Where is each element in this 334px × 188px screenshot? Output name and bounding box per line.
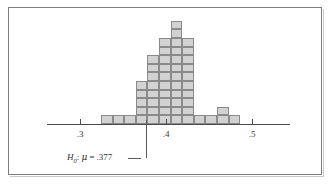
h0-pointer-vertical <box>146 120 147 158</box>
x-axis-tick <box>166 119 167 124</box>
histogram-cell <box>147 107 159 116</box>
x-axis-line <box>47 124 290 125</box>
histogram-cell <box>147 55 159 64</box>
histogram-cell <box>171 29 183 38</box>
histogram-cell <box>101 115 113 124</box>
histogram-cell <box>182 107 194 116</box>
histogram-cell <box>147 64 159 73</box>
histogram-plot: .3.4.5 H0: μ=.377 <box>0 0 334 188</box>
histogram-cell <box>159 107 171 116</box>
histogram-cell <box>171 72 183 81</box>
x-axis-tick-label: .3 <box>68 130 92 139</box>
h0-colon: : <box>77 152 80 162</box>
histogram-cell <box>229 115 241 124</box>
histogram-cell <box>113 115 125 124</box>
x-axis-tick-label: .5 <box>240 130 264 139</box>
histogram-cell <box>182 38 194 47</box>
h0-annotation-label: H0: μ=.377 <box>67 153 112 164</box>
h0-pointer-horizontal <box>128 158 141 159</box>
histogram-cell <box>182 98 194 107</box>
histogram-cell <box>182 115 194 124</box>
histogram-cell <box>217 107 229 116</box>
histogram-cell <box>136 90 148 99</box>
x-axis-tick <box>80 119 81 124</box>
histogram-cell <box>159 47 171 56</box>
histogram-cell <box>136 107 148 116</box>
figure-container: .3.4.5 H0: μ=.377 <box>0 0 334 188</box>
histogram-cell <box>171 64 183 73</box>
histogram-cell <box>124 115 136 124</box>
histogram-cell <box>159 72 171 81</box>
histogram-cell <box>182 90 194 99</box>
histogram-cell <box>147 90 159 99</box>
histogram-cell <box>159 90 171 99</box>
histogram-cell <box>147 81 159 90</box>
histogram-cell <box>147 115 159 124</box>
histogram-cell <box>171 115 183 124</box>
x-axis-tick <box>252 119 253 124</box>
histogram-cell <box>136 81 148 90</box>
histogram-cell <box>159 81 171 90</box>
x-axis-tick-label: .4 <box>154 130 178 139</box>
histogram-cell <box>171 38 183 47</box>
histogram-cell <box>171 47 183 56</box>
histogram-cell <box>147 72 159 81</box>
histogram-cell <box>182 55 194 64</box>
histogram-cell <box>182 64 194 73</box>
histogram-cell <box>171 81 183 90</box>
histogram-cell <box>171 21 183 30</box>
histogram-cell <box>205 115 217 124</box>
histogram-cell <box>147 98 159 107</box>
histogram-cell <box>159 64 171 73</box>
histogram-cell <box>182 81 194 90</box>
histogram-cell <box>182 47 194 56</box>
histogram-cell <box>171 98 183 107</box>
histogram-cell <box>217 115 229 124</box>
histogram-cell <box>136 98 148 107</box>
histogram-cell <box>159 38 171 47</box>
histogram-cell <box>171 55 183 64</box>
h0-value: .377 <box>96 152 112 162</box>
histogram-cell <box>159 98 171 107</box>
histogram-cell <box>171 107 183 116</box>
histogram-cell <box>182 72 194 81</box>
histogram-cell <box>159 55 171 64</box>
histogram-cell <box>194 115 206 124</box>
histogram-cell <box>171 90 183 99</box>
